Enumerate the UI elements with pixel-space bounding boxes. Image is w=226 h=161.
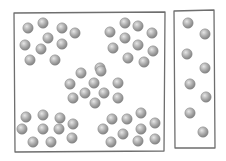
cluster-middle <box>65 63 123 108</box>
particle <box>147 28 157 38</box>
particle <box>25 55 35 65</box>
particle <box>106 137 116 147</box>
particle <box>150 134 160 144</box>
particle <box>46 137 56 147</box>
cluster-top-left <box>20 18 80 65</box>
particle <box>113 78 123 88</box>
particle <box>118 129 128 139</box>
particle <box>36 44 46 54</box>
particle <box>201 92 211 102</box>
particle <box>139 57 149 67</box>
particle <box>107 114 117 124</box>
particle <box>136 108 146 118</box>
particle <box>90 98 100 108</box>
column-balls <box>182 18 211 137</box>
particle <box>98 124 108 134</box>
particle <box>133 136 143 146</box>
particle <box>17 124 27 134</box>
particle <box>65 79 75 89</box>
particle <box>99 88 109 98</box>
particle <box>200 63 210 73</box>
particle <box>120 33 130 43</box>
particle <box>123 53 133 63</box>
particle <box>54 124 64 134</box>
particle <box>43 33 53 43</box>
cluster-bottom-left <box>17 110 78 147</box>
particle <box>108 43 118 53</box>
particle <box>68 119 78 129</box>
particle <box>185 108 195 118</box>
particle <box>76 68 86 78</box>
particle <box>67 133 77 143</box>
particle <box>133 21 143 31</box>
particle-diagram <box>0 0 226 161</box>
cluster-top-right <box>105 18 158 67</box>
particle <box>68 93 78 103</box>
particle <box>38 124 48 134</box>
particle <box>57 39 67 49</box>
particle <box>28 137 38 147</box>
particle <box>50 55 60 65</box>
particle <box>89 78 99 88</box>
particle <box>133 40 143 50</box>
particle <box>198 127 208 137</box>
particle <box>80 88 90 98</box>
cluster-bottom-right <box>98 108 160 147</box>
particle <box>182 49 192 59</box>
particle <box>38 18 48 28</box>
particle <box>23 23 33 33</box>
particle <box>200 29 210 39</box>
particle <box>57 23 67 33</box>
particle <box>38 110 48 120</box>
particle <box>113 93 123 103</box>
particle <box>136 124 146 134</box>
particle <box>21 112 31 122</box>
particle <box>120 18 130 28</box>
particle <box>183 18 193 28</box>
particles <box>17 18 211 147</box>
particle <box>55 113 65 123</box>
particle <box>150 118 160 128</box>
particle <box>105 27 115 37</box>
particle <box>96 66 106 76</box>
particle <box>122 114 132 124</box>
particle <box>148 46 158 56</box>
particle <box>70 28 80 38</box>
particle <box>185 79 195 89</box>
particle <box>20 40 30 50</box>
